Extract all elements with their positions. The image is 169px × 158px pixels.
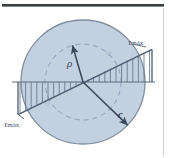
torsion-stress-figure: τmáx τmáx ρ c τρ τρ bbox=[0, 0, 169, 158]
tau-max-pointer-top-right bbox=[133, 44, 146, 47]
figure-canvas bbox=[0, 0, 169, 158]
right-rule bbox=[163, 8, 164, 156]
tau-max-pointer-bottom-left bbox=[19, 115, 24, 119]
top-rule bbox=[2, 4, 164, 7]
